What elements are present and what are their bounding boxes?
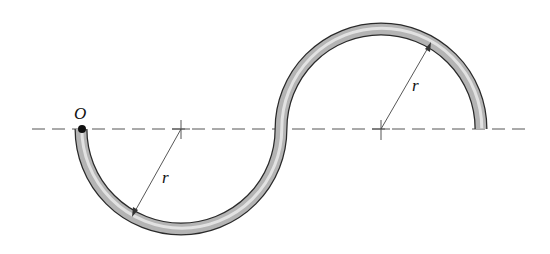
origin-point-icon xyxy=(78,125,86,133)
s-tube-diagram xyxy=(0,0,550,254)
right-radius-line xyxy=(381,42,431,129)
right-center-mark xyxy=(372,120,390,140)
left-radius-line xyxy=(132,129,181,217)
left-radius-label: r xyxy=(162,168,169,188)
right-radius-label: r xyxy=(412,76,419,96)
origin-label: O xyxy=(74,104,86,124)
